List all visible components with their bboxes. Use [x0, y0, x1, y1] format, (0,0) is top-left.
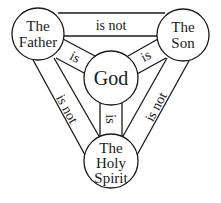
- edge-label-father-god: is: [67, 48, 82, 66]
- edge-spirit-god: is: [100, 102, 122, 137]
- node-spirit-line-3: Spirit: [94, 170, 128, 186]
- edge-father-son: is not: [58, 13, 165, 36]
- node-spirit: The Holy Spirit: [84, 134, 138, 188]
- node-son-line-2: Son: [171, 35, 195, 51]
- node-god: God: [84, 51, 138, 105]
- node-father-line-2: Father: [19, 34, 57, 50]
- node-spirit-line-1: The: [99, 140, 123, 156]
- node-spirit-line-2: Holy: [96, 155, 127, 171]
- trinity-diagram: is not is is is not is not is The Father: [0, 0, 221, 203]
- node-son: The Son: [157, 9, 209, 61]
- edge-label-son-god: is: [138, 47, 153, 65]
- node-god-label: God: [94, 67, 128, 89]
- node-father: The Father: [12, 8, 64, 60]
- edge-label-spirit-god: is: [103, 114, 118, 123]
- node-father-line-1: The: [26, 18, 50, 34]
- node-son-line-1: The: [171, 19, 195, 35]
- edge-label-father-son: is not: [96, 18, 127, 33]
